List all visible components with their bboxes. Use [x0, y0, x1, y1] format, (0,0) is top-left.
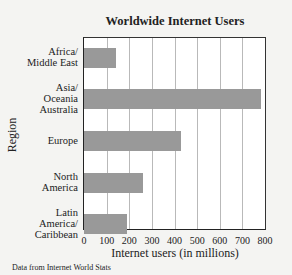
source-note: Data from Internet World Stats — [12, 263, 111, 272]
gridline — [220, 38, 221, 229]
chart-title: Worldwide Internet Users — [83, 14, 267, 29]
x-tick-label: 100 — [99, 235, 114, 246]
bar — [84, 131, 181, 151]
x-tick-label: 600 — [212, 235, 227, 246]
bar — [84, 89, 261, 109]
x-tick-label: 800 — [258, 235, 273, 246]
x-tick-label: 700 — [235, 235, 250, 246]
bar — [84, 173, 143, 193]
category-label: Africa/Middle East — [0, 46, 78, 68]
gridline — [242, 38, 243, 229]
gridline — [197, 38, 198, 229]
x-tick-label: 200 — [122, 235, 137, 246]
x-tick-label: 400 — [167, 235, 182, 246]
category-label: LatinAmerica/Caribbean — [0, 207, 78, 240]
category-label: Europe — [0, 135, 78, 146]
bar — [84, 214, 127, 234]
x-tick-label: 300 — [144, 235, 159, 246]
x-tick-label: 500 — [190, 235, 205, 246]
plot-area — [83, 37, 266, 230]
x-axis-label: Internet users (in millions) — [83, 246, 267, 261]
x-tick-label: 0 — [82, 235, 87, 246]
category-label: NorthAmerica — [0, 171, 78, 193]
category-label: Asia/OceaniaAustralia — [0, 82, 78, 115]
bar — [84, 48, 116, 68]
